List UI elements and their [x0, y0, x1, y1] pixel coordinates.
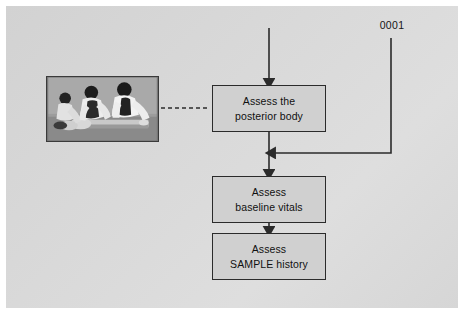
photo-log-roll — [46, 76, 159, 142]
process-box-assess-posterior-body[interactable]: Assess the posterior body — [212, 85, 326, 132]
process-box-label: Assess the posterior body — [229, 94, 309, 122]
log-roll-illustration — [47, 77, 158, 141]
figure-root: 0001 — [0, 0, 464, 314]
process-box-label: Assess SAMPLE history — [224, 242, 314, 270]
process-box-assess-baseline-vitals[interactable]: Assess baseline vitals — [212, 176, 326, 223]
process-box-label: Assess baseline vitals — [229, 185, 308, 213]
callout-number-label: 0001 — [370, 19, 414, 31]
process-box-assess-sample-history[interactable]: Assess SAMPLE history — [212, 233, 326, 280]
